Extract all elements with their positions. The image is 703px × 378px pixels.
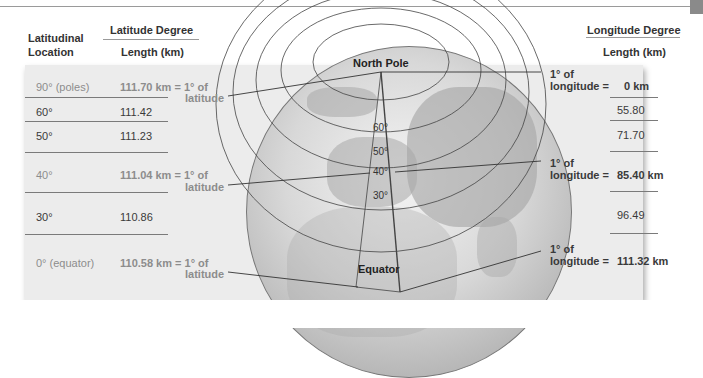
lon-row-3-prefix-line2: longitude = [550, 168, 609, 182]
lon-row-rule [610, 233, 658, 234]
lat-row-4-value: 110.86 [120, 210, 153, 224]
lat-row-rule [25, 234, 168, 235]
lon-row-2-value: 71.70 [617, 128, 645, 142]
lat-row-4-location: 30° [36, 210, 53, 224]
lat-row-rule [25, 152, 168, 153]
lat-row-rule [25, 192, 168, 193]
lon-row-0-value: 0 km [624, 79, 649, 93]
lat-row-5-location: 0° (equator) [36, 256, 94, 270]
lat-row-1-value: 111.42 [120, 105, 152, 119]
lat-row-rule [25, 121, 168, 122]
lat-row-5-suffix: latitude [185, 267, 224, 281]
lon-row-3-value: 85.40 km [617, 168, 663, 182]
north-pole-label: North Pole [353, 57, 409, 70]
lon-row-5-value: 111.32 km [617, 254, 668, 268]
lat-row-2-value: 111.23 [120, 129, 152, 143]
lat-row-3-suffix: latitude [185, 180, 224, 194]
bottom-whitespace [0, 300, 703, 328]
lon-row-rule [610, 120, 658, 121]
lon-row-1-value: 55.80 [617, 103, 645, 117]
lat-row-rule [25, 97, 168, 98]
lat-row-1-location: 60° [36, 105, 53, 119]
lat-row-3-location: 40° [36, 168, 53, 182]
lon-row-0-prefix-line2: longitude = [550, 79, 609, 93]
parallel-label-50: 50° [373, 146, 388, 157]
lon-row-4-value: 96.49 [617, 208, 645, 222]
lat-row-2-location: 50° [36, 129, 53, 143]
parallel-label-40: 40° [373, 166, 388, 177]
equator-label: Equator [358, 263, 400, 276]
lon-row-rule [610, 191, 658, 192]
parallel-label-60: 60° [373, 122, 388, 133]
lon-row-5-prefix-line2: longitude = [550, 254, 609, 268]
lat-row-0-location: 90° (poles) [36, 80, 89, 94]
lat-row-0-suffix: latitude [185, 91, 224, 105]
lon-row-rule [610, 97, 658, 98]
lon-row-rule [610, 151, 658, 152]
parallel-label-30: 30° [373, 190, 388, 201]
